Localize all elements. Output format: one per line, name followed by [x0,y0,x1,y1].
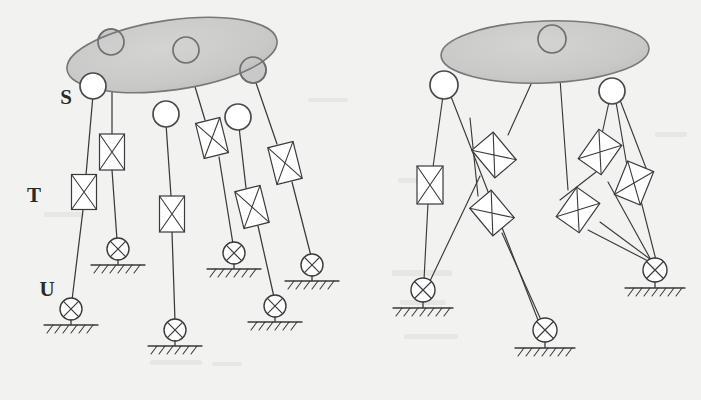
right-actuators [417,129,654,236]
left-actuators [72,118,303,232]
label-universal-joint: U [39,277,54,301]
figure-canvas: S T U [0,0,701,400]
left-universal-joints [44,238,339,354]
left-limb-links [72,52,311,321]
scan-artifacts [44,98,687,366]
right-manipulator [393,17,685,356]
left-manipulator [44,6,339,354]
label-spherical-joint: S [60,85,72,109]
joint-type-labels: S T U [27,85,72,301]
label-prismatic-actuator: T [27,183,41,207]
mechanism-diagram-svg: S T U [0,0,701,400]
